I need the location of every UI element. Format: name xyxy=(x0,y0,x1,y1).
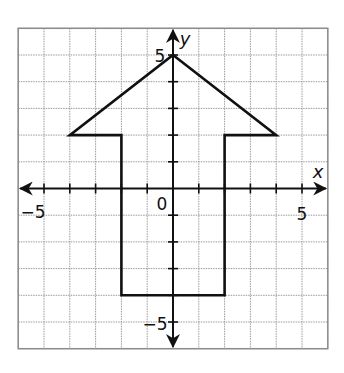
x-axis-label: x xyxy=(312,161,324,182)
axes xyxy=(20,30,326,346)
coordinate-plane: x y 0 −5 5 5 −5 xyxy=(0,0,344,373)
x-tick-label-pos5: 5 xyxy=(297,204,308,224)
y-tick-label-pos5: 5 xyxy=(155,46,166,66)
y-axis-label: y xyxy=(179,28,191,49)
origin-label: 0 xyxy=(157,194,168,214)
y-tick-label-neg5: −5 xyxy=(142,314,167,334)
x-tick-label-neg5: −5 xyxy=(20,202,45,222)
